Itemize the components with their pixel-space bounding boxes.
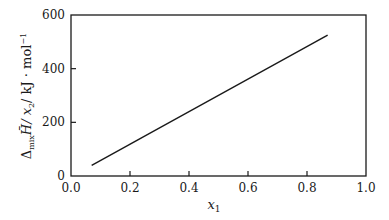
x-tick-label: 0.6: [238, 181, 257, 195]
x-tick-label: 0.8: [297, 181, 316, 195]
data-series: [92, 35, 328, 165]
x-tick-label: 1.0: [356, 181, 375, 195]
chart: 0.00.20.40.60.81.0 0200400600 x1 ΔmixH̄/…: [0, 0, 389, 220]
x-tick-label: 0.0: [61, 181, 80, 195]
x-tick-label: 0.4: [179, 181, 198, 195]
y-tick-label: 0: [57, 169, 65, 183]
y-tick-label: 200: [42, 115, 65, 129]
series-line: [92, 35, 328, 165]
y-axis-label: ΔmixH̄/ x2/ kJ · mol−1: [19, 33, 36, 159]
x-axis-label: x1: [207, 197, 220, 214]
y-tick-label: 400: [42, 62, 65, 76]
x-axis-ticks: 0.00.20.40.60.81.0: [61, 171, 375, 195]
x-tick-label: 0.2: [120, 181, 139, 195]
y-tick-label: 600: [42, 8, 65, 22]
